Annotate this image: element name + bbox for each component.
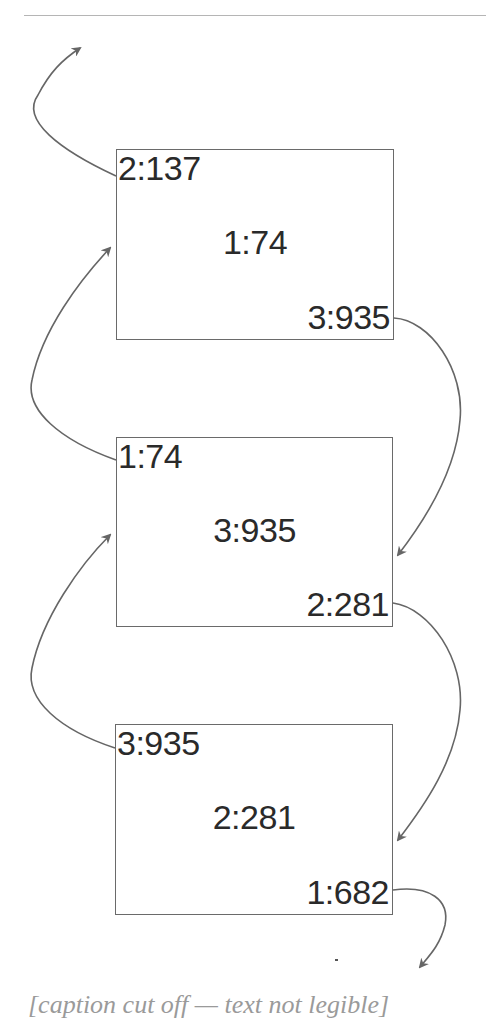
stray-mark	[335, 959, 338, 961]
arrow-node1-next	[394, 318, 460, 555]
top-divider	[24, 15, 486, 16]
node-value: 3:935	[117, 513, 392, 547]
node-prev-field: 3:935	[117, 726, 200, 760]
node-prev-field: 1:74	[118, 439, 182, 473]
arrow-node2-next	[393, 603, 460, 840]
arrow-node2-prev	[31, 248, 116, 460]
arrow-node1-prev	[34, 48, 116, 176]
arrow-node3-next	[393, 889, 446, 967]
list-node-3: 3:935 2:281 1:682	[115, 724, 393, 915]
node-next-field: 3:935	[307, 300, 390, 334]
node-value: 1:74	[117, 225, 393, 259]
node-next-field: 1:682	[306, 875, 389, 909]
arrow-node3-prev	[31, 535, 115, 748]
node-next-field: 2:281	[306, 587, 389, 621]
list-node-2: 1:74 3:935 2:281	[116, 437, 393, 627]
figure-caption: [caption cut off — text not legible]	[28, 992, 389, 1018]
node-value: 2:281	[116, 800, 392, 834]
node-prev-field: 2:137	[118, 151, 201, 185]
list-node-1: 2:137 1:74 3:935	[116, 149, 394, 340]
